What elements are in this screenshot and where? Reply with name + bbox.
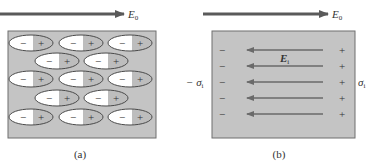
plus-sign: + — [88, 37, 94, 49]
plus-sign: + — [38, 73, 44, 85]
minus-sign: − — [70, 111, 76, 123]
minus-sign: − — [119, 73, 125, 85]
surface-charge-right-label: σi — [358, 76, 365, 90]
dipole-grid: −+−+−+−+−+−+−+−+−+−+−+−+−+ — [9, 35, 154, 125]
minus-sign: − — [119, 37, 125, 49]
minus-sign: − — [119, 111, 125, 123]
plus-sign: + — [64, 55, 70, 67]
negative-surface-charge: − — [219, 76, 225, 88]
panel-b: E0 −+−+−+−+−+ Ei − σi σi (b) — [186, 8, 365, 161]
plus-sign: + — [88, 111, 94, 123]
positive-surface-charge: + — [339, 60, 345, 72]
plus-sign: + — [137, 37, 143, 49]
minus-sign: − — [46, 55, 52, 67]
negative-surface-charge: − — [219, 44, 225, 56]
plus-sign: + — [137, 111, 143, 123]
field-label-e0-a: E0 — [127, 8, 139, 22]
surface-charge-left-label: − σi — [186, 76, 204, 90]
positive-surface-charge: + — [339, 76, 345, 88]
plus-sign: + — [137, 73, 143, 85]
panel-a: E0 −+−+−+−+−+−+−+−+−+−+−+−+−+ (a) — [0, 8, 156, 161]
plus-sign: + — [113, 55, 119, 67]
plus-sign: + — [38, 111, 44, 123]
minus-sign: − — [70, 37, 76, 49]
negative-surface-charge: − — [219, 108, 225, 120]
dielectric-slab-b — [212, 31, 355, 138]
minus-sign: − — [20, 73, 26, 85]
negative-surface-charge: − — [219, 92, 225, 104]
minus-sign: − — [95, 55, 101, 67]
positive-surface-charge: + — [339, 92, 345, 104]
positive-surface-charge: + — [339, 108, 345, 120]
dielectric-polarization-diagram: E0 −+−+−+−+−+−+−+−+−+−+−+−+−+ (a) E0 −+−… — [0, 0, 369, 166]
negative-surface-charge: − — [219, 60, 225, 72]
plus-sign: + — [88, 73, 94, 85]
plus-sign: + — [113, 92, 119, 104]
field-label-e0-b: E0 — [331, 8, 343, 22]
caption-a: (a) — [74, 148, 87, 161]
plus-sign: + — [64, 92, 70, 104]
positive-surface-charge: + — [339, 44, 345, 56]
plus-sign: + — [38, 37, 44, 49]
minus-sign: − — [46, 92, 52, 104]
caption-b: (b) — [273, 148, 286, 161]
minus-sign: − — [20, 111, 26, 123]
minus-sign: − — [95, 92, 101, 104]
minus-sign: − — [70, 73, 76, 85]
minus-sign: − — [20, 37, 26, 49]
